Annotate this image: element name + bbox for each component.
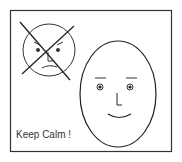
caption-text: Keep Calm !	[16, 129, 71, 140]
illustration: Keep Calm !	[0, 0, 182, 162]
